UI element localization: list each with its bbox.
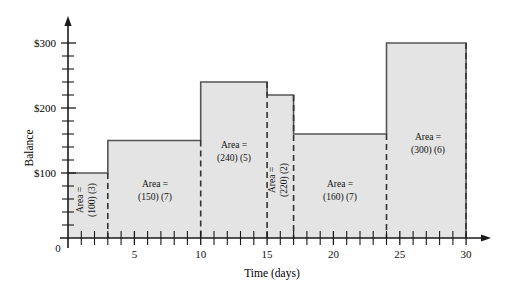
- area-label-line2: (300) (6): [411, 145, 445, 156]
- step-area-group: [68, 43, 466, 238]
- area-label-line2: (150) (7): [138, 192, 172, 203]
- area-label-line1: Area =: [415, 132, 441, 142]
- area-label-line1: Area =: [75, 187, 85, 213]
- balance-step-chart: $300 $200 $100 Balance: [0, 0, 510, 293]
- y-axis-arrowhead: [64, 16, 71, 26]
- area-label-line2: (220) (2): [279, 163, 290, 197]
- y-tick-label-100: $100: [34, 167, 57, 179]
- y-axis: $300 $200 $100 Balance: [23, 16, 76, 248]
- area-label-line1: Area =: [142, 179, 168, 189]
- x-tick-label-10: 10: [195, 248, 207, 260]
- area-label-line1: Area =: [327, 179, 353, 189]
- area-label-segment-4: Area = (220) (2): [267, 163, 290, 197]
- area-label-segment-1: Area = (100) (3): [75, 183, 98, 217]
- area-label-line1: Area =: [221, 140, 247, 150]
- chart-svg: $300 $200 $100 Balance: [0, 0, 510, 293]
- y-axis-title: Balance: [23, 129, 35, 166]
- x-axis-arrowhead: [481, 234, 491, 241]
- area-label-line2: (240) (5): [217, 153, 251, 164]
- y-tick-label-300: $300: [34, 37, 57, 49]
- origin-label: 0: [55, 242, 61, 254]
- x-axis-title: Time (days): [244, 267, 300, 280]
- x-tick-label-20: 20: [328, 248, 340, 260]
- area-label-line2: (160) (7): [323, 192, 357, 203]
- x-axis: 5 10 15 20 25 30 0 Time (days): [55, 231, 491, 280]
- x-tick-label-30: 30: [461, 248, 473, 260]
- x-tick-label-25: 25: [394, 248, 406, 260]
- y-tick-label-200: $200: [34, 102, 57, 114]
- x-tick-label-5: 5: [132, 248, 138, 260]
- area-label-line2: (100) (3): [87, 183, 98, 217]
- x-tick-label-15: 15: [262, 248, 274, 260]
- area-label-line1: Area =: [267, 167, 277, 193]
